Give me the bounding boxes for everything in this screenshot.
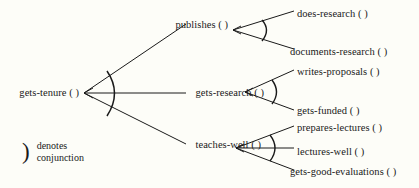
node-prepares-lectures[interactable]: prepares-lectures ( ) [297,122,382,134]
conjunction-symbol-icon: ) [22,140,30,163]
legend-label: denotes conjunction [37,140,84,163]
node-gets-funded[interactable]: gets-funded ( ) [297,105,360,117]
conjunction-arc-gets-research [272,80,277,104]
edges-root [84,24,186,144]
edge-teaches-well-gets-good-evaluations [236,148,294,170]
node-teaches-well[interactable]: teaches-well ( ) [195,139,261,151]
node-gets-research[interactable]: gets-research ( ) [196,87,264,99]
conjunction-arc-publishes [262,20,267,41]
legend: ) denotes conjunction [22,140,84,163]
edge-publishes-does-research [233,11,294,30]
edge-root-teaches-well [84,93,186,144]
node-publishes[interactable]: publishes ( ) [175,19,228,31]
node-gets-tenure[interactable]: gets-tenure ( ) [19,87,79,99]
node-does-research[interactable]: does-research ( ) [297,8,368,20]
node-documents-research[interactable]: documents-research ( ) [290,46,387,58]
edges-publishes [233,11,294,49]
node-lectures-well[interactable]: lectures-well ( ) [297,146,364,158]
diagram-canvas: gets-tenure ( ) publishes ( ) gets-resea… [0,0,419,188]
edge-root-publishes [84,24,186,93]
node-gets-good-evaluations[interactable]: gets-good-evaluations ( ) [290,166,396,178]
node-writes-proposals[interactable]: writes-proposals ( ) [297,66,380,78]
